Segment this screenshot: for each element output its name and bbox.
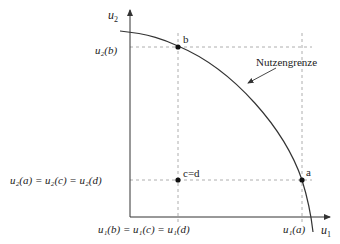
tick-label-u1-bcd: u₁(b) = u₁(c) = u₁(d): [98, 223, 190, 236]
y-axis-label: u2: [108, 8, 118, 24]
point-cd: [175, 177, 180, 182]
point-cd-label: c=d: [183, 167, 200, 179]
point-a: [299, 177, 304, 182]
point-a-label: a: [306, 166, 311, 178]
curve-label-arrow: [248, 68, 276, 83]
point-b: [175, 44, 180, 49]
utility-frontier-diagram: b c=d a Nutzengrenze u2 u1 u₂(b) u₂(a) =…: [0, 0, 340, 244]
tick-label-u1-a: u₁(a): [283, 223, 305, 236]
tick-label-u2-b: u₂(b): [95, 44, 117, 57]
tick-label-u2-acd: u₂(a) = u₂(c) = u₂(d): [10, 174, 102, 187]
x-axis-label: u1: [321, 223, 331, 239]
curve-label: Nutzengrenze: [256, 56, 317, 68]
point-b-label: b: [183, 33, 189, 45]
